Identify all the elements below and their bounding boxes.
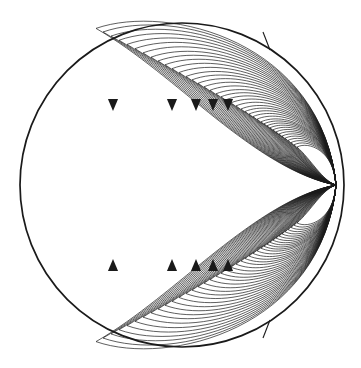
dipole-field-diagram	[0, 0, 361, 368]
figure-root	[0, 0, 361, 368]
figure-background	[0, 0, 361, 368]
